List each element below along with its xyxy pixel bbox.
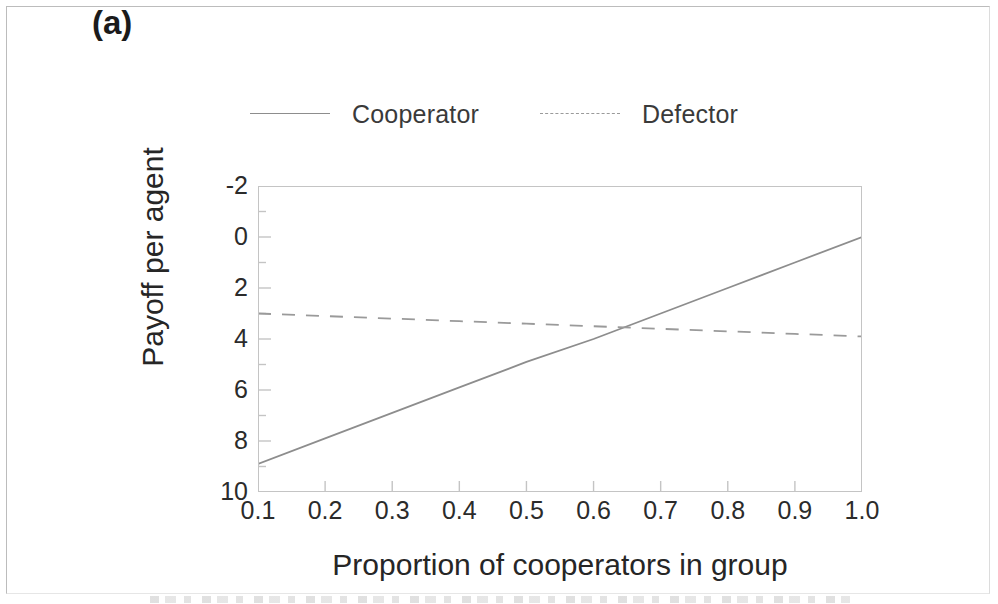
plot-canvas [258, 186, 862, 492]
x-tick-label: 0.6 [559, 498, 629, 523]
figure-panel-a: (a) Cooperator Defector Payoff per agent… [0, 0, 998, 604]
x-tick-label: 1.0 [827, 498, 897, 523]
y-tick-label: 2 [202, 275, 248, 300]
y-tick-label: 4 [202, 326, 248, 351]
x-tick-label: 0.7 [626, 498, 696, 523]
panel-label: (a) [92, 6, 132, 39]
scan-artifact [150, 596, 850, 603]
x-tick-label: 0.1 [223, 498, 293, 523]
y-axis-tick-labels: 1086420-2 [194, 186, 248, 492]
plot-area [258, 186, 862, 492]
legend-entry-cooperator: Cooperator [250, 96, 479, 132]
axis-ticks [258, 186, 862, 492]
x-axis-tick-labels: 0.10.20.30.40.50.60.70.80.91.0 [258, 498, 862, 532]
series-line-cooperator [258, 237, 862, 464]
data-series [258, 237, 862, 464]
x-tick-label: 0.4 [424, 498, 494, 523]
y-tick-label: 8 [202, 428, 248, 453]
legend-label-cooperator: Cooperator [352, 100, 479, 129]
y-tick-label: -2 [202, 173, 248, 198]
legend-entry-defector: Defector [540, 96, 738, 132]
x-tick-label: 0.3 [357, 498, 427, 523]
legend-label-defector: Defector [642, 100, 738, 129]
x-tick-label: 0.9 [760, 498, 830, 523]
x-tick-label: 0.8 [693, 498, 763, 523]
y-tick-label: 0 [202, 224, 248, 249]
series-line-defector [258, 314, 862, 337]
x-axis-title: Proportion of cooperators in group [258, 548, 862, 582]
y-axis-title: Payoff per agent [136, 92, 170, 422]
x-tick-label: 0.5 [491, 498, 561, 523]
legend-line-dashed-icon [540, 107, 620, 121]
y-tick-label: 6 [202, 377, 248, 402]
x-tick-label: 0.2 [290, 498, 360, 523]
chart-legend: Cooperator Defector [250, 96, 770, 132]
legend-line-solid-icon [250, 107, 330, 121]
